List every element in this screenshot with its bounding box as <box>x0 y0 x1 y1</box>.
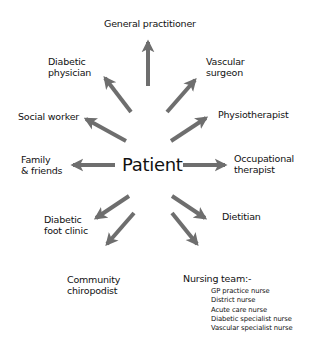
node-occupational-therapist: Occupational therapist <box>234 153 294 175</box>
nursing-team-member: Vascular specialist nurse <box>211 324 293 333</box>
arrow-to-nursing-team <box>172 213 197 244</box>
node-label-line: physician <box>48 67 91 78</box>
arrow-to-vascular-surgeon <box>167 80 195 112</box>
node-label-line: General practitioner <box>104 18 196 29</box>
node-label-line: Diabetic <box>48 56 91 67</box>
center-node-patient: Patient <box>122 154 183 175</box>
nursing-team-member: GP practice nurse <box>211 287 293 296</box>
node-label-line: Physiotherapist <box>218 109 288 120</box>
node-label-line: Dietitian <box>222 211 261 222</box>
node-label-line: Nursing team:- <box>183 273 251 284</box>
nursing-team-member: District nurse <box>211 296 293 305</box>
node-vascular-surgeon: Vascular surgeon <box>206 56 245 78</box>
arrow-to-diabetic-foot-clinic <box>96 196 129 218</box>
arrow-to-physiotherapist <box>171 118 206 141</box>
arrow-to-dietitian <box>172 196 205 218</box>
node-label-line: & friends <box>21 165 62 176</box>
arrow-to-diabetic-physician <box>105 78 131 112</box>
node-label-line: Vascular <box>206 56 245 67</box>
node-label-line: Community <box>67 274 120 285</box>
node-label-line: foot clinic <box>44 225 88 236</box>
arrow-to-community-chiropodist <box>107 213 134 244</box>
node-label-line: Occupational <box>234 153 294 164</box>
node-label-line: Family <box>21 154 62 165</box>
node-family-friends: Family & friends <box>21 154 62 176</box>
node-physiotherapist: Physiotherapist <box>218 109 288 120</box>
node-general-practitioner: General practitioner <box>104 18 196 29</box>
node-dietitian: Dietitian <box>222 211 261 222</box>
nursing-team-member: Diabetic specialist nurse <box>211 315 293 324</box>
nursing-team-list: GP practice nurse District nurse Acute c… <box>211 287 293 333</box>
node-label-line: therapist <box>234 164 294 175</box>
node-label-line: Diabetic <box>44 214 88 225</box>
node-diabetic-foot-clinic: Diabetic foot clinic <box>44 214 88 236</box>
node-label-line: chiropodist <box>67 285 120 296</box>
nursing-team-member: Acute care nurse <box>211 306 293 315</box>
node-community-chiropodist: Community chiropodist <box>67 274 120 296</box>
arrow-to-social-worker <box>86 119 126 141</box>
node-nursing-team: Nursing team:- <box>183 273 251 284</box>
node-label-line: Social worker <box>18 111 79 122</box>
node-social-worker: Social worker <box>18 111 79 122</box>
node-label-line: surgeon <box>206 67 245 78</box>
node-diabetic-physician: Diabetic physician <box>48 56 91 78</box>
